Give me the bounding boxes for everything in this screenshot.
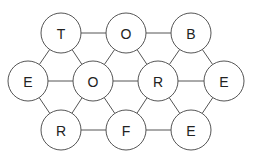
node-e-10: E [171,110,211,150]
node-f-9: F [106,110,146,150]
node-label: E [219,74,228,90]
node-label: F [122,123,131,139]
node-e-7: E [204,61,244,101]
node-r-8: R [41,110,81,150]
node-label: R [153,74,163,90]
node-r-6: R [138,61,178,101]
node-e-4: E [8,61,48,101]
node-b-3: B [171,13,211,53]
node-label: E [186,123,195,139]
node-o-2: O [106,13,146,53]
node-label: T [57,26,66,42]
node-label: O [88,74,99,90]
node-label: O [121,26,132,42]
node-label: R [56,123,66,139]
letter-graph-diagram: TOBEORERFE [0,0,255,163]
node-label: E [23,74,32,90]
node-label: B [186,26,195,42]
node-t-1: T [41,13,81,53]
node-o-5: O [73,61,113,101]
